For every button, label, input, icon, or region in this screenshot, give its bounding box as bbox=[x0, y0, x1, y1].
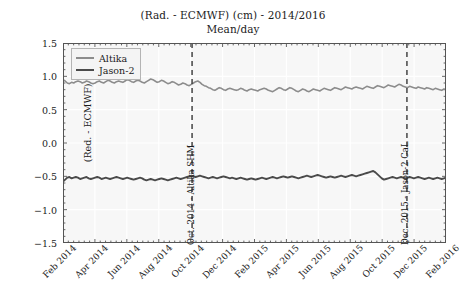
x-tick-label: Dec 2014 bbox=[200, 243, 238, 281]
x-tick-label: Dec 2015 bbox=[392, 243, 430, 281]
y-tick-label: 1.0 bbox=[42, 71, 57, 82]
y-tick-label: 0.5 bbox=[42, 104, 57, 115]
legend-label-jason2: Jason-2 bbox=[99, 65, 134, 76]
chart-title: (Rad. - ECMWF) (cm) - 2014/2016 bbox=[0, 8, 466, 22]
legend-swatch-altika bbox=[76, 57, 94, 59]
x-tick-label: Feb 2016 bbox=[424, 243, 461, 280]
annotation-label: Dec. 2015 - Jason-2 CaL bbox=[400, 141, 410, 245]
legend-item-altika: Altika bbox=[76, 52, 134, 64]
y-tick-label: 0.0 bbox=[42, 138, 57, 149]
annotation-label: Oct. 2014 - Altika SHM bbox=[186, 145, 196, 245]
chart-legend: Altika Jason-2 bbox=[71, 48, 141, 80]
y-tick-label: −1.5 bbox=[34, 238, 57, 249]
chart-figure: (Rad. - ECMWF) (cm) - 2014/2016 Mean/day… bbox=[0, 0, 466, 297]
legend-item-jason2: Jason-2 bbox=[76, 64, 134, 76]
legend-swatch-jason2 bbox=[76, 69, 94, 71]
x-tick-label: Feb 2015 bbox=[232, 243, 269, 280]
y-tick-label: −1.0 bbox=[34, 204, 57, 215]
x-tick-label: Apr 2014 bbox=[73, 243, 110, 280]
x-tick-label: Aug 2015 bbox=[327, 243, 365, 281]
chart-subtitle: Mean/day bbox=[0, 22, 466, 36]
y-tick-label: −0.5 bbox=[34, 171, 57, 182]
x-tick-label: Oct 2014 bbox=[169, 243, 206, 280]
chart-title-block: (Rad. - ECMWF) (cm) - 2014/2016 Mean/day bbox=[0, 8, 466, 36]
legend-label-altika: Altika bbox=[99, 53, 127, 64]
y-tick-label: 1.5 bbox=[42, 38, 57, 49]
x-tick-label: Aug 2014 bbox=[136, 243, 174, 281]
plot-area: (Red. - ECMWF) (cm) 1.51.00.50.0−0.5−1.0… bbox=[63, 43, 446, 243]
